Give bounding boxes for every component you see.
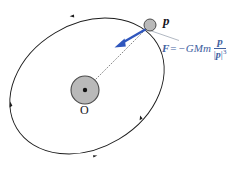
orbit-direction-marker-bottom <box>93 155 97 157</box>
fraction-numerator: p <box>216 36 224 48</box>
central-body <box>71 76 99 104</box>
denominator-exponent: 3 <box>223 48 227 56</box>
minus-sign: − <box>178 43 186 54</box>
force-symbol: F <box>162 43 169 54</box>
gravitational-orbit-figure: p O F = − GMm p |p|3 <box>0 0 246 171</box>
orbiting-body-label: p <box>163 14 170 27</box>
central-body-core-dot <box>83 88 87 92</box>
force-equation: F = − GMm p |p|3 <box>162 36 226 60</box>
orbit-direction-marker-top-left <box>70 15 75 18</box>
orbit-diagram-canvas <box>0 0 246 171</box>
orbiting-body <box>144 19 156 31</box>
gravitational-constants: GMm <box>186 43 211 54</box>
orbit-direction-marker-right <box>140 116 143 121</box>
position-unit-fraction: p |p|3 <box>214 36 227 60</box>
fraction-denominator: |p|3 <box>214 49 227 60</box>
equals-sign: = <box>169 43 177 54</box>
origin-label: O <box>80 104 89 116</box>
force-vector-arrow <box>115 29 148 48</box>
